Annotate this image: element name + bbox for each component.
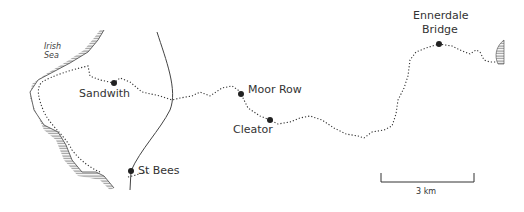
scale-label: 3 km (416, 186, 436, 198)
place-label-cleator: Cleator (233, 124, 273, 136)
place-label-sandwith: Sandwith (79, 88, 130, 100)
sea-label: Irish Sea (44, 42, 61, 60)
walking-route (38, 44, 496, 177)
coastline (30, 30, 114, 190)
place-label-bridge: Bridge (422, 24, 458, 36)
marker-ennerdale-bridge (436, 41, 442, 47)
route-map: Irish Sea Sandwith St Bees Moor Row Clea… (0, 0, 524, 212)
marker-st-bees (128, 168, 134, 174)
sea-label-line-2: Sea (44, 51, 61, 60)
place-label-st-bees: St Bees (138, 165, 180, 177)
sea-label-line-1: Irish (44, 42, 61, 51)
place-label-ennerdale: Ennerdale (413, 10, 469, 22)
marker-moor-row (238, 91, 244, 97)
marker-sandwith (111, 80, 117, 86)
lake-edge (496, 40, 504, 64)
scale-bar (381, 173, 474, 182)
place-label-moor-row: Moor Row (248, 84, 302, 96)
